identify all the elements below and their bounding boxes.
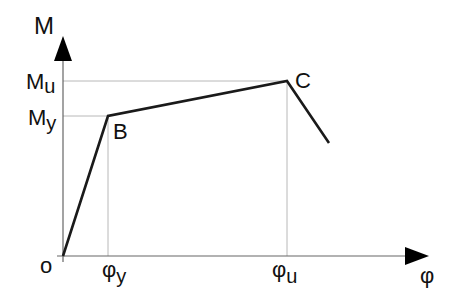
moment-curvature-diagram: M φ o Mu My φy φu B C bbox=[0, 0, 460, 304]
x-axis-label: φ bbox=[420, 263, 434, 288]
moment-curvature-curve bbox=[63, 81, 329, 256]
phiy-label: φy bbox=[102, 257, 126, 287]
y-axis-arrow-icon bbox=[54, 36, 72, 61]
mu-label: Mu bbox=[26, 69, 55, 97]
origin-label: o bbox=[40, 253, 52, 278]
point-c-label: C bbox=[295, 68, 311, 93]
phiu-label: φu bbox=[272, 257, 297, 287]
my-label: My bbox=[28, 105, 56, 134]
point-b-label: B bbox=[113, 119, 128, 144]
y-axis-label: M bbox=[34, 12, 54, 39]
